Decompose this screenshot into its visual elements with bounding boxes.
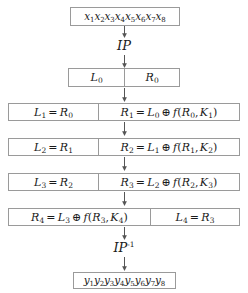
round-4-right-text: L4=R3 <box>176 212 215 223</box>
round-4-left-text: R4=L3⊕f(R3,K4) <box>31 212 128 223</box>
round-1: L1=R0 R1=L0⊕f(R0,K1) <box>8 103 240 121</box>
arrow-round1-to-round2 <box>120 122 129 136</box>
ip-text: IP <box>117 38 131 53</box>
split-block-right-R0: R0 <box>124 69 179 86</box>
arrow-plaintext-to-ip <box>120 26 129 38</box>
split-block: L0 R0 <box>68 68 180 87</box>
round-1-right: R1=L0⊕f(R0,K1) <box>98 104 239 120</box>
split-block-left-L0: L0 <box>69 69 124 86</box>
round-3: L3=R2 R3=L2⊕f(R2,K3) <box>8 173 240 191</box>
round-2-left-text: L2=R1 <box>34 142 73 153</box>
round-4: R4=L3⊕f(R3,K4) L4=R3 <box>8 208 240 226</box>
arrow-ip-to-split <box>120 55 129 68</box>
arrow-round4-to-ipinv <box>120 227 129 240</box>
L0-text: L0 <box>91 72 103 83</box>
round-4-left: R4=L3⊕f(R3,K4) <box>9 209 150 225</box>
ciphertext-block: y1y2y3y4y5y6y7y8 <box>73 272 176 289</box>
round-3-left-text: L3=R2 <box>34 177 73 188</box>
inverse-initial-permutation-label: IP-1 <box>94 240 154 255</box>
arrow-split-to-round1 <box>120 88 129 102</box>
plaintext-block: x1x2x3x4x5x6x7x8 <box>70 7 180 26</box>
round-3-left: L3=R2 <box>9 174 98 190</box>
arrow-round3-to-round4 <box>120 192 129 206</box>
round-2-right-text: R2=L1⊕f(R1,K2) <box>121 142 218 153</box>
ciphertext-text: y1y2y3y4y5y6y7y8 <box>84 275 166 286</box>
feistel-cipher-diagram: x1x2x3x4x5x6x7x8 IP L0 R0 <box>0 0 248 293</box>
round-3-right: R3=L2⊕f(R2,K3) <box>98 174 239 190</box>
ip-inverse-text: IP-1 <box>113 240 134 255</box>
round-4-right: L4=R3 <box>150 209 239 225</box>
round-2: L2=R1 R2=L1⊕f(R1,K2) <box>8 138 240 156</box>
R0-text: R0 <box>146 72 159 83</box>
round-1-left-text: L1=R0 <box>34 107 73 118</box>
arrow-round2-to-round3 <box>120 157 129 171</box>
round-1-left: L1=R0 <box>9 104 98 120</box>
round-2-right: R2=L1⊕f(R1,K2) <box>98 139 239 155</box>
arrow-ipinv-to-ciphertext <box>120 257 129 271</box>
initial-permutation-label: IP <box>98 38 150 53</box>
round-3-right-text: R3=L2⊕f(R2,K3) <box>121 177 218 188</box>
round-2-left: L2=R1 <box>9 139 98 155</box>
round-1-right-text: R1=L0⊕f(R0,K1) <box>121 107 218 118</box>
plaintext-text: x1x2x3x4x5x6x7x8 <box>84 11 166 22</box>
